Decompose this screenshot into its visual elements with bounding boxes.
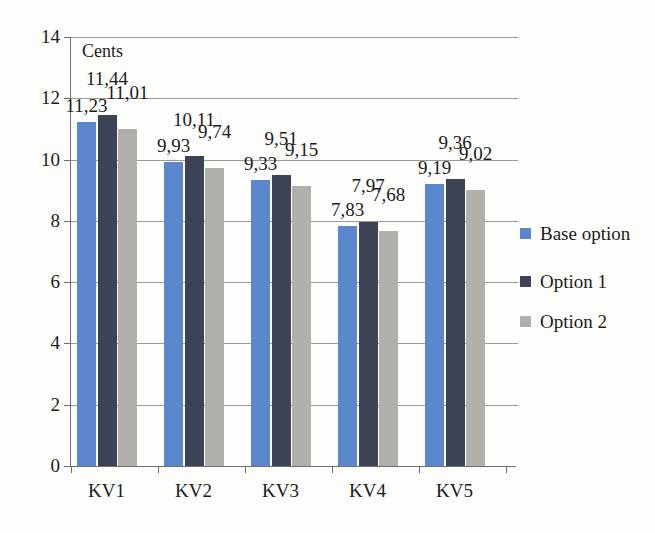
data-label-kv2-series2: 9,74 [188, 122, 242, 141]
x-axis-tick [71, 466, 72, 473]
bar-kv3-series2[interactable] [292, 186, 311, 466]
x-axis-label-kv3: KV3 [241, 480, 321, 502]
bar-kv5-series0[interactable] [425, 184, 444, 466]
x-axis-tick [158, 466, 159, 473]
bar-kv1-series0[interactable] [77, 122, 96, 466]
x-axis-label-kv5: KV5 [415, 480, 495, 502]
data-label-kv5-series2: 9,02 [449, 144, 503, 163]
x-axis-label-kv4: KV4 [328, 480, 408, 502]
legend-item-option-1[interactable]: Option 1 [520, 270, 607, 292]
bar-kv2-series1[interactable] [185, 156, 204, 466]
bar-kv1-series2[interactable] [118, 129, 137, 466]
y-axis-tick-label: 4 [20, 333, 60, 352]
data-label-kv3-series2: 9,15 [275, 140, 329, 159]
y-axis-tick-label: 6 [20, 272, 60, 291]
y-axis-tick-label: 2 [20, 395, 60, 414]
x-axis-tick [332, 466, 333, 473]
x-axis-tick [245, 466, 246, 473]
bar-kv1-series1[interactable] [98, 115, 117, 466]
data-label-kv1-series2: 11,01 [101, 83, 155, 102]
bar-kv4-series1[interactable] [359, 222, 378, 466]
y-axis-tick-label: 8 [20, 211, 60, 230]
bar-kv4-series2[interactable] [379, 231, 398, 466]
bar-kv2-series2[interactable] [205, 168, 224, 466]
legend-label: Base option [540, 224, 630, 243]
legend-swatch-icon [520, 228, 531, 239]
data-label-kv4-series2: 7,68 [362, 185, 416, 204]
bar-kv2-series0[interactable] [164, 162, 183, 466]
bar-kv4-series0[interactable] [338, 226, 357, 466]
bar-kv5-series1[interactable] [446, 179, 465, 466]
y-axis-tick-label: 12 [20, 88, 60, 107]
legend-swatch-icon [520, 316, 531, 327]
bar-chart: 02468101214 Cents 11,239,939,337,839,191… [0, 0, 655, 533]
legend-item-base-option[interactable]: Base option [520, 222, 630, 244]
y-axis-tick-label: 0 [20, 456, 60, 475]
x-axis-label-kv2: KV2 [154, 480, 234, 502]
y-axis-tick-label: 14 [20, 27, 60, 46]
x-axis-tick [506, 466, 507, 473]
x-axis-line [70, 466, 516, 467]
x-axis-tick [419, 466, 420, 473]
x-axis-label-kv1: KV1 [67, 480, 147, 502]
legend-label: Option 2 [540, 312, 607, 331]
legend-label: Option 1 [540, 272, 607, 291]
bar-kv3-series0[interactable] [251, 180, 270, 466]
y-axis-tick [64, 466, 71, 467]
bar-kv5-series2[interactable] [466, 190, 485, 466]
y-axis-tick-label: 10 [20, 150, 60, 169]
legend-swatch-icon [520, 276, 531, 287]
legend-item-option-2[interactable]: Option 2 [520, 310, 607, 332]
bar-kv3-series1[interactable] [272, 175, 291, 466]
